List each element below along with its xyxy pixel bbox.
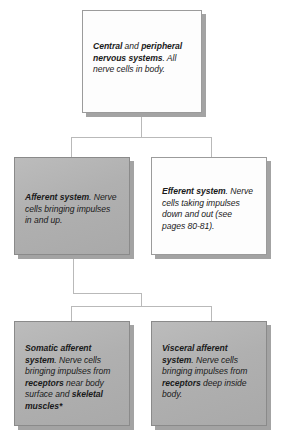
connector-afferent-jog <box>73 293 142 294</box>
connector-to-efferent <box>211 137 212 157</box>
node-central-peripheral[interactable]: Central and peripheral nervous systems. … <box>82 10 202 113</box>
text-and: and <box>122 41 141 51</box>
flowchart-diagram: Central and peripheral nervous systems. … <box>0 0 285 439</box>
connector-level2-bus <box>71 137 212 138</box>
text-afferent-system: Afferent system <box>25 192 89 202</box>
text-central: Central <box>93 41 122 51</box>
node-central-peripheral-text: Central and peripheral nervous systems. … <box>83 41 201 76</box>
node-efferent-system-text: Efferent system. Nerve cells taking impu… <box>152 186 266 232</box>
node-somatic-afferent-system-text: Somatic afferent system. Nerve cells bri… <box>15 343 129 413</box>
node-efferent-system[interactable]: Efferent system. Nerve cells taking impu… <box>151 157 267 255</box>
text-visceral-receptors: receptors <box>162 378 201 388</box>
text-efferent-system: Efferent system <box>162 186 226 196</box>
connector-afferent-stem <box>73 259 74 293</box>
connector-afferent-drop <box>141 293 142 306</box>
text-somatic-receptors: receptors <box>25 378 64 388</box>
node-visceral-afferent-system[interactable]: Visceral afferent system. Nerve cells br… <box>151 321 267 426</box>
connector-level3-bus <box>71 306 212 307</box>
node-afferent-system-text: Afferent system. Nerve cells bringing im… <box>15 192 129 227</box>
connector-to-afferent <box>71 137 72 157</box>
connector-to-visceral <box>211 306 212 321</box>
connector-to-somatic <box>71 306 72 321</box>
node-visceral-afferent-system-text: Visceral afferent system. Nerve cells br… <box>152 343 266 401</box>
node-afferent-system[interactable]: Afferent system. Nerve cells bringing im… <box>14 157 130 255</box>
node-somatic-afferent-system[interactable]: Somatic afferent system. Nerve cells bri… <box>14 321 130 426</box>
connector-root-stem <box>141 116 142 137</box>
